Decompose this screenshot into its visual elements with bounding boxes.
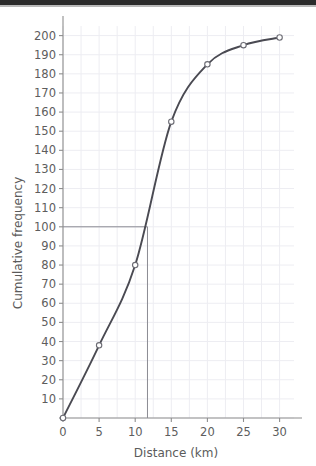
y-tick-label: 90 xyxy=(41,239,56,253)
cumulative-frequency-chart: 1020304050607080901001101201301401501601… xyxy=(0,7,316,466)
y-tick-label: 110 xyxy=(34,201,56,215)
y-tick-label: 60 xyxy=(41,296,56,310)
tick-marks xyxy=(59,36,280,422)
x-tick-label: 20 xyxy=(200,425,215,439)
data-point-marker xyxy=(241,42,246,47)
y-tick-label: 40 xyxy=(41,335,56,349)
x-axis-title: Distance (km) xyxy=(134,446,218,460)
y-tick-label: 100 xyxy=(34,220,56,234)
x-axis-tick-labels: 051015202530 xyxy=(59,425,287,439)
x-tick-label: 15 xyxy=(164,425,179,439)
data-point-marker xyxy=(277,35,282,40)
y-tick-label: 140 xyxy=(34,143,56,157)
data-point-marker xyxy=(96,343,101,348)
y-tick-label: 80 xyxy=(41,258,56,272)
data-point-marker xyxy=(60,415,65,420)
y-tick-label: 130 xyxy=(34,162,56,176)
y-tick-label: 200 xyxy=(34,29,56,43)
y-tick-label: 30 xyxy=(41,354,56,368)
y-axis-tick-labels: 1020304050607080901001101201301401501601… xyxy=(34,29,56,406)
x-tick-label: 5 xyxy=(95,425,102,439)
data-point-marker xyxy=(205,62,210,67)
y-tick-label: 170 xyxy=(34,86,56,100)
chart-canvas: 1020304050607080901001101201301401501601… xyxy=(0,7,316,466)
x-tick-label: 30 xyxy=(272,425,287,439)
y-tick-label: 120 xyxy=(34,182,56,196)
y-tick-label: 10 xyxy=(41,392,56,406)
gridlines xyxy=(63,26,294,418)
y-axis-title: Cumulative frequency xyxy=(11,177,25,310)
y-tick-label: 150 xyxy=(34,124,56,138)
y-tick-label: 160 xyxy=(34,105,56,119)
data-point-marker xyxy=(169,119,174,124)
y-tick-label: 190 xyxy=(34,48,56,62)
y-tick-label: 70 xyxy=(41,277,56,291)
x-tick-label: 10 xyxy=(128,425,143,439)
x-tick-label: 25 xyxy=(236,425,251,439)
x-tick-label: 0 xyxy=(59,425,66,439)
y-tick-label: 50 xyxy=(41,315,56,329)
y-tick-label: 20 xyxy=(41,373,56,387)
y-tick-label: 180 xyxy=(34,67,56,81)
data-point-marker xyxy=(133,262,138,267)
